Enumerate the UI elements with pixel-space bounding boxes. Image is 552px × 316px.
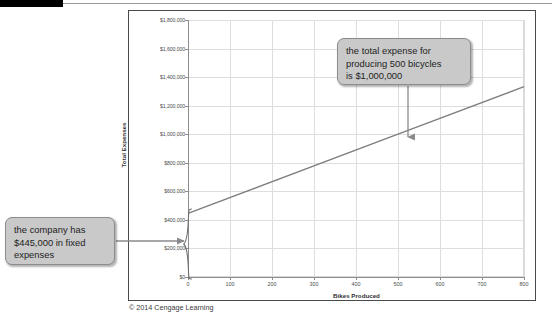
x-axis-tick-label: 700 [478, 281, 487, 287]
callout-fixed-expense-line-3: expenses [14, 249, 106, 262]
callout-fixed-expense[interactable]: the company has $445,000 in fixed expens… [5, 217, 115, 265]
x-axis-tick-label: 400 [352, 281, 361, 287]
x-axis-tick-label: 500 [394, 281, 403, 287]
y-axis-tick-label: $400,000 [128, 217, 185, 223]
x-axis-tick-label: 800 [520, 281, 529, 287]
y-axis-tick-label: $1,800,000 [128, 17, 185, 23]
y-axis-tick-label: $1,200,000 [128, 103, 185, 109]
x-axis-tick-label: 600 [436, 281, 445, 287]
y-axis-tick-label: $200,000 [128, 245, 185, 251]
copyright-credit: © 2014 Cengage Learning [129, 303, 213, 312]
x-axis-title: Bikes Produced [188, 292, 525, 299]
y-axis-title: Total Expenses [120, 123, 127, 168]
page-header-rule [63, 3, 552, 4]
callout-total-expense-line-3: is $1,000,000 [346, 70, 462, 83]
callout-fixed-expense-line-2: $445,000 in fixed [14, 237, 106, 250]
callout-total-expense-line-2: producing 500 bicycles [346, 58, 462, 71]
x-axis-tick-label: 0 [187, 281, 190, 287]
y-axis-tick-label: $0 [128, 274, 185, 280]
y-axis-tick-label: $600,000 [128, 188, 185, 194]
callout-total-expense[interactable]: the total expense for producing 500 bicy… [337, 38, 471, 85]
y-axis-tick-label: $1,600,000 [128, 46, 185, 52]
series-line [188, 87, 524, 214]
callout-total-expense-line-1: the total expense for [346, 45, 462, 58]
x-axis-tick-label: 100 [226, 281, 235, 287]
y-axis-tick-label: $1,000,000 [128, 131, 185, 137]
figure-root: $0$200,000$400,000$600,000$800,000$1,000… [0, 0, 552, 316]
callout-fixed-expense-line-1: the company has [14, 224, 106, 237]
y-axis-tick-label: $1,400,000 [128, 74, 185, 80]
y-axis-tick-label: $800,000 [128, 160, 185, 166]
x-axis-tick-label: 300 [310, 281, 319, 287]
page-header-bar [0, 0, 63, 7]
x-axis-tick-label: 200 [268, 281, 277, 287]
fixed-expense-brace [183, 208, 193, 280]
